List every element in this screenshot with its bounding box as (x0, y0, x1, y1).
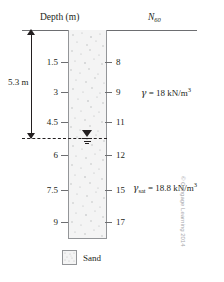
n60-tick-3 (105, 122, 112, 123)
depth-tick-3 (61, 122, 68, 123)
dimension-arrow-up-icon (27, 29, 35, 35)
n60-tick-1 (105, 62, 112, 63)
gamma-sat-text: = 18.8 kN/m (146, 183, 194, 193)
legend-sand-swatch (62, 250, 77, 265)
n60-tick-4 (105, 155, 112, 156)
unit-weight-annotation: γ = 18 kN/m3 (141, 87, 191, 98)
n60-value-3: 11 (116, 117, 125, 127)
dimension-line (31, 32, 32, 138)
copyright-credit: © Cengage Learning 2014 (180, 176, 186, 256)
depth-label-2: 3 (32, 87, 58, 97)
legend-sand-label: Sand (83, 253, 101, 263)
water-table-bar-1 (82, 138, 92, 139)
water-table-line (22, 138, 107, 139)
depth-tick-4 (61, 155, 68, 156)
n60-tick-5 (105, 190, 112, 191)
n60-tick-2 (105, 92, 112, 93)
n60-value-2: 9 (116, 87, 121, 97)
n60-value-1: 8 (116, 57, 121, 67)
depth-tick-6 (61, 222, 68, 223)
n60-tick-6 (105, 222, 112, 223)
water-table-bar-3 (85, 143, 89, 144)
legend-stipple-texture (63, 251, 76, 264)
gamma-sat-subscript: sat (138, 187, 145, 194)
depth-tick-2 (61, 92, 68, 93)
depth-label-6: 9 (32, 217, 58, 227)
depth-tick-5 (61, 190, 68, 191)
depth-label-4: 6 (32, 150, 58, 160)
ground-surface-line (22, 30, 197, 31)
n60-column-header: N60 (148, 13, 161, 24)
legend: Sand (62, 250, 101, 265)
saturated-unit-weight-annotation: γsat = 18.8 kN/m3 (133, 182, 197, 195)
depth-label-5: 7.5 (32, 185, 58, 195)
n60-value-4: 12 (116, 150, 125, 160)
water-table-bar-2 (84, 141, 91, 142)
gamma-text: = 18 kN/m (146, 88, 187, 98)
water-table-triangle-icon (82, 130, 92, 137)
depth-column-header: Depth (m) (40, 13, 79, 23)
gamma-exponent: 3 (188, 86, 191, 93)
soil-profile-figure: Depth (m) N60 (0, 0, 224, 282)
gamma-sat-exponent: 3 (194, 181, 197, 188)
n60-value-6: 17 (116, 217, 125, 227)
depth-tick-1 (61, 62, 68, 63)
n60-value-5: 15 (116, 185, 125, 195)
n60-header-subscript: 60 (154, 16, 161, 23)
depth-label-3: 4.5 (32, 117, 58, 127)
dimension-label: 5.3 m (8, 78, 29, 87)
water-table-icon (80, 130, 94, 144)
depth-label-1: 1.5 (32, 57, 58, 67)
